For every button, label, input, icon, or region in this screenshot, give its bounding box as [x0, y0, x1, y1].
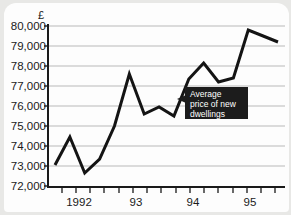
chart-screenshot: £ 80,000 79,000 78,000 77,000 76,000 75,… — [0, 0, 291, 215]
gridlines — [48, 26, 285, 166]
callout-line-1: Average — [190, 89, 245, 99]
callout-line-2: price of new — [190, 99, 245, 109]
series-callout-label: Average price of new dwellings — [185, 87, 248, 119]
callout-pointer-icon — [177, 95, 186, 103]
callout-line-3: dwellings — [190, 109, 245, 119]
